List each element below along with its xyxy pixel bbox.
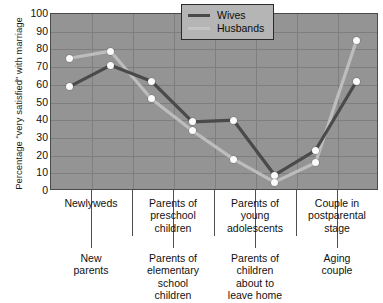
y-tick-100: 100: [30, 7, 48, 19]
x-label-upper: Parents ofyoungadolescents: [214, 197, 296, 234]
x-label-upper: Parents ofpreschoolchildren: [132, 197, 214, 234]
chart-figure: Percentage “very satisfied” with marriag…: [0, 0, 383, 303]
x-label-lower: Parents ofchildrenabout toleave home: [214, 252, 296, 302]
legend-swatch-icon: [188, 14, 210, 18]
y-tick-50: 50: [36, 96, 48, 108]
y-tick-30: 30: [36, 131, 48, 143]
data-point: [230, 156, 237, 163]
y-tick-40: 40: [36, 113, 48, 125]
data-point: [189, 127, 196, 134]
data-point: [271, 179, 278, 186]
chart-legend: WivesHusbands: [181, 4, 274, 40]
y-tick-60: 60: [36, 78, 48, 90]
data-point-markers: [51, 14, 377, 189]
data-point: [189, 118, 196, 125]
y-tick-70: 70: [36, 60, 48, 72]
y-tick-0: 0: [42, 184, 48, 196]
legend-label: Husbands: [217, 22, 264, 35]
data-point: [312, 159, 319, 166]
x-axis-category-labels: NewlywedsParents ofpreschoolchildrenPare…: [50, 190, 380, 303]
legend-swatch-icon: [188, 27, 210, 31]
data-point: [230, 117, 237, 124]
data-point: [148, 78, 155, 85]
x-label-lower: Parents ofelementaryschoolchildren: [132, 252, 214, 302]
x-label-upper: Couple inpostparentalstage: [296, 197, 378, 234]
y-tick-20: 20: [36, 149, 48, 161]
legend-label: Wives: [217, 9, 246, 22]
x-label-upper: Newlyweds: [50, 197, 132, 209]
x-label-lower: Newparents: [50, 252, 132, 277]
data-point: [271, 172, 278, 179]
data-point: [353, 37, 360, 44]
x-label-lower: Agingcouple: [296, 252, 378, 277]
legend-entry-wives: Wives: [188, 9, 264, 22]
legend-entry-husbands: Husbands: [188, 22, 264, 35]
data-point: [107, 48, 114, 55]
data-point: [66, 55, 73, 62]
data-point: [148, 95, 155, 102]
y-axis-tick-labels: 1009080706050403020100: [14, 0, 48, 303]
data-point: [353, 78, 360, 85]
data-point: [66, 83, 73, 90]
y-tick-10: 10: [36, 166, 48, 178]
data-point: [107, 62, 114, 69]
y-tick-80: 80: [36, 42, 48, 54]
y-tick-90: 90: [36, 25, 48, 37]
data-point: [312, 147, 319, 154]
